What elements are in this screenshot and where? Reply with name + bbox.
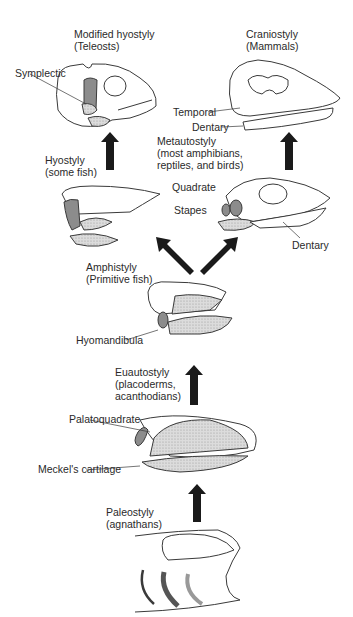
label-dentary: Dentary — [292, 239, 329, 251]
arrow-diag-left-icon — [156, 237, 194, 275]
metautostyly-skull-icon — [218, 178, 330, 238]
label-stapes: Stapes — [174, 204, 207, 216]
arrow-up-icon — [185, 365, 203, 405]
stage-title-euautostyly: Euautostyly — [115, 366, 169, 378]
stage-group-agnathans: (agnathans) — [106, 518, 162, 530]
stage-group-mammals: (Mammals) — [246, 40, 299, 52]
hyostyly-skull-icon — [62, 186, 160, 246]
stage-title-craniostyly: Craniostyly — [246, 28, 298, 40]
arrow-diag-right-icon — [200, 237, 238, 275]
diagram-canvas — [0, 0, 353, 617]
stage-group-line1: (placoderms, — [115, 378, 176, 390]
stage-title-paleostyly: Paleostyly — [106, 506, 154, 518]
stage-group-line2: reptiles, and birds) — [157, 159, 243, 171]
label-temporal: Temporal — [173, 106, 216, 118]
arrow-up-icon — [101, 132, 119, 170]
stage-group-teleosts: (Teleosts) — [74, 40, 120, 52]
label-dentary-mammal: Dentary — [192, 121, 229, 133]
stage-group-some-fish: (some fish) — [45, 166, 97, 178]
stage-title-hyostyly: Hyostyly — [45, 154, 85, 166]
label-symplectic: Symplectic — [15, 67, 66, 79]
stage-title-modified-hyostyly: Modified hyostyly — [74, 28, 155, 40]
stage-group-line2: acanthodians) — [115, 390, 181, 402]
stage-title-metautostyly: Metautostyly — [157, 135, 216, 147]
amphistyly-skull-icon — [126, 282, 232, 340]
stage-title-amphistyly: Amphistyly — [86, 261, 137, 273]
label-palatoquadrate: Palatoquadrate — [69, 413, 140, 425]
agnathan-head-icon — [135, 530, 240, 612]
stage-group-line1: (most amphibians, — [157, 147, 243, 159]
label-quadrate: Quadrate — [172, 181, 216, 193]
stage-group-primitive-fish: (Primitive fish) — [86, 273, 153, 285]
label-meckels-cartilage: Meckel's cartilage — [38, 463, 121, 475]
arrow-up-icon — [280, 132, 298, 170]
label-hyomandibula: Hyomandibula — [76, 334, 143, 346]
mammal-skull-icon — [208, 60, 340, 130]
arrow-up-icon — [188, 484, 206, 522]
